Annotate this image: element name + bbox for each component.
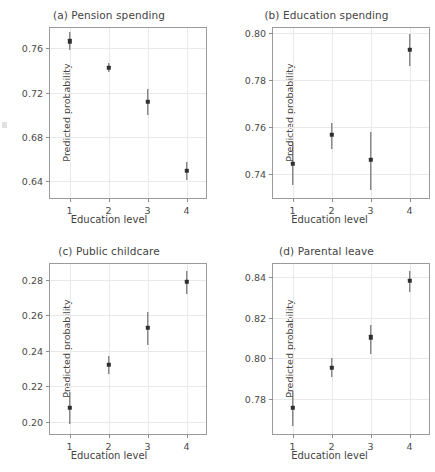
gridline-horizontal <box>273 80 429 81</box>
plot-area: Predicted probability 0.640.680.720.7612… <box>49 27 207 199</box>
data-point-marker <box>145 326 149 330</box>
y-axis-tick <box>46 137 50 138</box>
gridline-horizontal <box>273 127 429 128</box>
y-axis-tick <box>46 422 50 423</box>
gridline-vertical <box>332 28 333 198</box>
gridline-vertical <box>70 28 71 198</box>
error-bar <box>370 325 371 355</box>
data-point-marker <box>290 162 294 166</box>
y-axis-tick <box>46 280 50 281</box>
x-axis-tick <box>371 198 372 202</box>
y-axis-tick <box>46 315 50 316</box>
gridline-horizontal <box>273 399 429 400</box>
y-axis-tick-label: 0.76 <box>245 121 266 132</box>
scan-artifact <box>2 122 7 128</box>
y-axis-tick-label: 0.28 <box>22 274 43 285</box>
x-axis-tick <box>148 198 149 202</box>
data-point-marker <box>184 169 188 173</box>
y-axis-tick-label: 0.80 <box>245 28 266 39</box>
x-axis-tick <box>293 198 294 202</box>
x-axis-label: Education level <box>224 450 435 461</box>
y-axis-tick-label: 0.20 <box>22 416 43 427</box>
y-axis-tick <box>46 351 50 352</box>
x-axis-tick <box>70 434 71 438</box>
panel-a-pension-spending: (a) Pension spending Predicted probabili… <box>0 0 218 236</box>
x-axis-tick <box>371 434 372 438</box>
y-axis-tick <box>269 174 273 175</box>
gridline-horizontal <box>50 137 206 138</box>
y-axis-tick-label: 0.24 <box>22 345 43 356</box>
data-point-marker <box>67 406 71 410</box>
gridline-vertical <box>109 28 110 198</box>
y-axis-tick <box>46 93 50 94</box>
y-axis-tick <box>269 318 273 319</box>
y-axis-tick <box>269 277 273 278</box>
gridline-horizontal <box>50 280 206 281</box>
y-axis-tick-label: 0.68 <box>22 131 43 142</box>
x-axis-tick <box>332 434 333 438</box>
y-axis-tick-label: 0.74 <box>245 168 266 179</box>
x-axis-tick <box>410 434 411 438</box>
plot-area: Predicted probability 0.200.220.240.260.… <box>49 263 207 435</box>
plot-area: Predicted probability 0.740.760.780.8012… <box>272 27 430 199</box>
data-point-marker <box>67 39 71 43</box>
panel-b-education-spending: (b) Education spending Predicted probabi… <box>218 0 435 236</box>
y-axis-tick <box>269 399 273 400</box>
panel-d-parental-leave: (d) Parental leave Predicted probability… <box>218 236 435 472</box>
gridline-horizontal <box>273 358 429 359</box>
y-axis-tick-label: 0.64 <box>22 175 43 186</box>
x-axis-label: Education level <box>0 450 218 461</box>
gridline-vertical <box>109 264 110 434</box>
y-axis-tick-label: 0.78 <box>245 75 266 86</box>
panel-title: (c) Public childcare <box>0 245 218 257</box>
y-axis-tick-label: 0.80 <box>245 353 266 364</box>
panel-c-public-childcare: (c) Public childcare Predicted probabili… <box>0 236 218 472</box>
data-point-marker <box>184 280 188 284</box>
data-point-marker <box>368 335 372 339</box>
gridline-horizontal <box>50 93 206 94</box>
x-axis-tick <box>332 198 333 202</box>
gridline-horizontal <box>273 318 429 319</box>
gridline-horizontal <box>50 351 206 352</box>
y-axis-tick-label: 0.76 <box>22 43 43 54</box>
y-axis-tick <box>269 358 273 359</box>
panel-title: (a) Pension spending <box>0 9 218 21</box>
gridline-horizontal <box>50 386 206 387</box>
data-point-marker <box>368 158 372 162</box>
x-axis-tick <box>187 434 188 438</box>
y-axis-tick <box>269 33 273 34</box>
gridline-horizontal <box>273 277 429 278</box>
y-axis-tick-label: 0.82 <box>245 312 266 323</box>
x-axis-tick <box>187 198 188 202</box>
x-axis-tick <box>410 198 411 202</box>
y-axis-tick <box>46 386 50 387</box>
gridline-horizontal <box>273 33 429 34</box>
panel-title: (d) Parental leave <box>218 245 435 257</box>
data-point-marker <box>106 362 110 366</box>
data-point-marker <box>145 100 149 104</box>
x-axis-label: Education level <box>0 214 218 225</box>
gridline-horizontal <box>50 48 206 49</box>
y-axis-tick-label: 0.22 <box>22 381 43 392</box>
y-axis-tick-label: 0.78 <box>245 393 266 404</box>
data-point-marker <box>407 48 411 52</box>
x-axis-tick <box>109 198 110 202</box>
y-axis-tick-label: 0.72 <box>22 87 43 98</box>
data-point-marker <box>106 66 110 70</box>
x-axis-tick <box>109 434 110 438</box>
gridline-horizontal <box>50 181 206 182</box>
data-point-marker <box>407 279 411 283</box>
panel-title: (b) Education spending <box>218 9 435 21</box>
data-point-marker <box>290 405 294 409</box>
gridline-vertical <box>332 264 333 434</box>
gridline-horizontal <box>50 315 206 316</box>
x-axis-tick <box>293 434 294 438</box>
y-axis-tick <box>269 80 273 81</box>
x-axis-tick <box>70 198 71 202</box>
y-axis-tick <box>46 181 50 182</box>
y-axis-tick-label: 0.84 <box>245 272 266 283</box>
data-point-marker <box>329 366 333 370</box>
plot-area: Predicted probability 0.780.800.820.8412… <box>272 263 430 435</box>
data-point-marker <box>329 132 333 136</box>
multi-panel-figure: (a) Pension spending Predicted probabili… <box>0 0 435 472</box>
